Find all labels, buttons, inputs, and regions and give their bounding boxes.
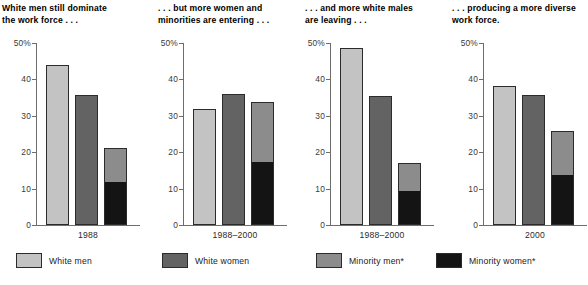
legend-item-white-women: White women <box>162 253 249 268</box>
y-tick-label-30: 30 <box>21 111 31 121</box>
bar-white-men <box>46 65 69 225</box>
bar-group-1 <box>42 43 140 225</box>
y-tick-label-40: 40 <box>315 74 325 84</box>
y-tick-10 <box>32 189 37 190</box>
bar-group-3 <box>336 43 434 225</box>
y-tick-label-10: 10 <box>168 184 178 194</box>
y-tick-label-40: 40 <box>21 74 31 84</box>
chart-panel-1: White men still dominate the work force … <box>0 0 147 245</box>
y-tick-40 <box>179 79 184 80</box>
bar-white-women <box>522 95 545 225</box>
bar-segment <box>523 95 544 224</box>
y-tick-label-50: 50% <box>14 38 31 48</box>
chart-legend: White men White women Minority men* Mino… <box>0 253 588 283</box>
legend-label-white-women: White women <box>195 256 249 266</box>
y-tick-40 <box>32 79 37 80</box>
plot-area-1: 50% 40 30 20 10 <box>36 43 140 225</box>
y-axis-line <box>36 43 37 225</box>
y-tick-label-10: 10 <box>21 184 31 194</box>
bar-segment <box>76 95 97 224</box>
x-category-label-4: 2000 <box>483 230 587 240</box>
legend-swatch-minority-women <box>436 253 462 268</box>
bar-white-women <box>222 94 245 225</box>
bar-minority-stacked <box>104 148 127 225</box>
y-tick-label-0: 0 <box>173 220 178 230</box>
chart-panel-3: . . . and more white males are leaving .… <box>294 0 441 245</box>
bar-segment <box>194 109 215 224</box>
y-tick-0 <box>179 225 184 226</box>
x-category-label-1: 1988 <box>36 230 140 240</box>
y-tick-label-10: 10 <box>315 184 325 194</box>
legend-label-minority-women: Minority women* <box>469 256 536 266</box>
y-tick-20 <box>479 152 484 153</box>
bar-segment <box>47 65 68 224</box>
bar-segment <box>341 48 362 224</box>
y-tick-label-0: 0 <box>26 220 31 230</box>
bar-segment <box>552 175 573 225</box>
y-tick-0 <box>479 225 484 226</box>
legend-label-white-men: White men <box>49 256 92 266</box>
y-tick-30 <box>179 116 184 117</box>
y-tick-label-0: 0 <box>320 220 325 230</box>
bar-white-men <box>340 48 363 225</box>
legend-label-minority-men: Minority men* <box>349 256 404 266</box>
y-tick-10 <box>179 189 184 190</box>
y-tick-10 <box>479 189 484 190</box>
chart-panel-2: . . . but more women and minorities are … <box>147 0 294 245</box>
multi-panel-bar-chart: White men still dominate the work force … <box>0 0 588 285</box>
bar-segment <box>370 96 391 224</box>
bar-segment <box>252 102 273 162</box>
y-tick-40 <box>326 79 331 80</box>
y-tick-label-50: 50% <box>161 38 178 48</box>
bar-segment <box>552 131 573 175</box>
bar-white-women <box>369 96 392 225</box>
panel-title-2: . . . but more women and minorities are … <box>158 3 294 26</box>
y-tick-20 <box>32 152 37 153</box>
x-category-label-2: 1988–2000 <box>183 230 287 240</box>
y-tick-30 <box>326 116 331 117</box>
y-tick-label-30: 30 <box>168 111 178 121</box>
y-tick-label-0: 0 <box>473 220 478 230</box>
bar-segment <box>399 191 420 224</box>
bar-group-4 <box>489 43 587 225</box>
bar-minority-stacked <box>551 131 574 225</box>
y-tick-30 <box>479 116 484 117</box>
bar-segment <box>105 148 126 182</box>
legend-swatch-white-men <box>16 253 42 268</box>
y-tick-label-30: 30 <box>315 111 325 121</box>
plot-area-3: 50% 40 30 20 10 <box>330 43 434 225</box>
y-tick-label-50: 50% <box>308 38 325 48</box>
y-tick-0 <box>326 225 331 226</box>
bar-white-men <box>193 109 216 225</box>
y-tick-30 <box>32 116 37 117</box>
bar-segment <box>399 163 420 191</box>
y-tick-0 <box>32 225 37 226</box>
x-category-label-3: 1988–2000 <box>330 230 434 240</box>
y-tick-20 <box>326 152 331 153</box>
y-tick-10 <box>326 189 331 190</box>
bar-minority-stacked <box>398 163 421 225</box>
chart-panels: White men still dominate the work force … <box>0 0 588 245</box>
y-tick-label-20: 20 <box>315 147 325 157</box>
bar-white-men <box>493 86 516 225</box>
bar-segment <box>105 182 126 224</box>
y-axis-line <box>483 43 484 225</box>
y-tick-20 <box>179 152 184 153</box>
y-tick-label-50: 50% <box>461 38 478 48</box>
bar-segment <box>252 162 273 224</box>
y-tick-50 <box>479 43 484 44</box>
y-axis-line <box>183 43 184 225</box>
chart-panel-4: . . . producing a more diverse work forc… <box>441 0 588 245</box>
y-tick-label-20: 20 <box>168 147 178 157</box>
legend-item-white-men: White men <box>16 253 92 268</box>
y-tick-50 <box>32 43 37 44</box>
panel-title-1: White men still dominate the work force … <box>2 3 144 26</box>
plot-area-2: 50% 40 30 20 10 <box>183 43 287 225</box>
y-tick-label-40: 40 <box>168 74 178 84</box>
legend-swatch-white-women <box>162 253 188 268</box>
legend-item-minority-men: Minority men* <box>316 253 404 268</box>
bar-segment <box>223 94 244 224</box>
legend-swatch-minority-men <box>316 253 342 268</box>
y-tick-label-30: 30 <box>468 111 478 121</box>
bar-white-women <box>75 95 98 225</box>
